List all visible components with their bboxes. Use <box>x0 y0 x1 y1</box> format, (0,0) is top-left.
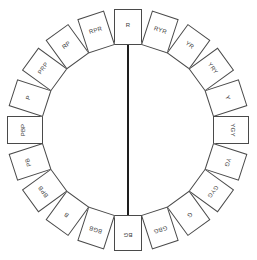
segment-label: PRP <box>33 56 53 81</box>
segment-label: BGB <box>82 223 109 237</box>
axis-line-r-bg <box>127 45 129 215</box>
segment-label: RPR <box>82 23 109 37</box>
segment-label: PB <box>21 149 35 176</box>
hue-circle-diagram: R RYR YR YRY Y YGY YG GYG G GBG BG BGB B… <box>0 0 257 260</box>
segment-label: G <box>177 205 202 225</box>
segment-label: B <box>54 205 79 225</box>
segment-label: YRY <box>203 56 223 81</box>
segment-label: YR <box>177 35 202 55</box>
segment-label: R <box>115 22 141 28</box>
segment-label: YGY <box>230 117 236 143</box>
segment-label: RYR <box>147 23 174 37</box>
segment-label: RP <box>54 35 79 55</box>
segment-label: Y <box>221 84 235 111</box>
segment-ygy: YGY <box>213 116 249 144</box>
segment-label: GYG <box>203 179 223 204</box>
segment-bg: BG <box>114 215 142 251</box>
segment-pbp: PBP <box>7 116 43 144</box>
segment-r: R <box>114 9 142 45</box>
segment-label: YG <box>221 149 235 176</box>
segment-label: GBG <box>147 223 174 237</box>
segment-label: BG <box>115 232 141 238</box>
segment-label: PBP <box>20 117 26 143</box>
segment-label: P <box>21 84 35 111</box>
segment-label: BPB <box>33 179 53 204</box>
